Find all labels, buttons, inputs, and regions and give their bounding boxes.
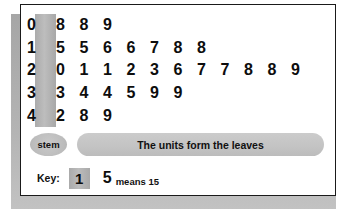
figure-card: 0 8 8 9 1 5 5 6 6 7 8 (20, 4, 336, 196)
key-means-text: means 15 (116, 176, 159, 191)
leaf-value: 8 (56, 17, 80, 33)
key-leaf-value: 5 (103, 169, 112, 187)
legend-row: stem The units form the leaves (21, 132, 335, 158)
leaf-value: 1 (80, 62, 104, 78)
leaf-value: 0 (56, 62, 80, 78)
leaf-group: 5 5 6 6 7 8 8 (56, 40, 221, 56)
leaf-value: 2 (56, 108, 80, 124)
table-row: 3 3 4 4 5 9 9 (21, 82, 315, 105)
leaf-value: 4 (80, 85, 104, 101)
leaf-value: 8 (80, 17, 104, 33)
leaf-value: 9 (291, 62, 315, 78)
stem-value: 1 (21, 40, 56, 56)
leaf-value: 3 (150, 62, 174, 78)
leaf-group: 8 8 9 (56, 17, 127, 33)
leaf-value: 9 (174, 85, 198, 101)
table-row: 2 0 1 1 2 3 6 7 7 8 8 9 (21, 59, 315, 82)
table-row: 0 8 8 9 (21, 14, 315, 37)
stem-value: 0 (21, 17, 56, 33)
stem-label-pill: stem (30, 133, 67, 156)
leaf-value: 3 (56, 85, 80, 101)
leaf-value: 7 (150, 40, 174, 56)
leaf-value: 9 (150, 85, 174, 101)
leaf-group: 0 1 1 2 3 6 7 7 8 8 9 (56, 62, 315, 78)
leaf-value: 6 (103, 40, 127, 56)
leaf-value: 8 (174, 40, 198, 56)
leaf-value: 1 (103, 62, 127, 78)
leaf-value: 8 (268, 62, 292, 78)
key-row: Key: 1 5 means 15 (21, 165, 335, 191)
key-stem-box: 1 (69, 168, 90, 189)
stem-value: 4 (21, 108, 56, 124)
leaf-value: 8 (80, 108, 104, 124)
stem-and-leaf-figure: 0 8 8 9 1 5 5 6 6 7 8 (0, 0, 352, 209)
leaf-value: 5 (56, 40, 80, 56)
leaf-value: 5 (80, 40, 104, 56)
leaf-value: 4 (103, 85, 127, 101)
leaves-note-banner: The units form the leaves (77, 133, 324, 156)
table-row: 1 5 5 6 6 7 8 8 (21, 37, 315, 60)
table-row: 4 2 8 9 (21, 104, 315, 127)
leaf-group: 3 4 4 5 9 9 (56, 85, 197, 101)
leaf-value: 6 (127, 40, 151, 56)
key-label: Key: (37, 172, 60, 184)
leaf-value: 5 (127, 85, 151, 101)
leaf-value: 9 (103, 108, 127, 124)
stem-value: 2 (21, 62, 56, 78)
leaf-value: 8 (244, 62, 268, 78)
leaf-value: 2 (127, 62, 151, 78)
leaf-value: 8 (197, 40, 221, 56)
stem-and-leaf-rows: 0 8 8 9 1 5 5 6 6 7 8 (21, 14, 315, 127)
stem-value: 3 (21, 85, 56, 101)
stem-and-leaf-plot: 0 8 8 9 1 5 5 6 6 7 8 (21, 5, 335, 195)
leaf-value: 7 (221, 62, 245, 78)
leaf-value: 9 (103, 17, 127, 33)
leaf-group: 2 8 9 (56, 108, 127, 124)
leaf-value: 7 (197, 62, 221, 78)
leaf-value: 6 (174, 62, 198, 78)
